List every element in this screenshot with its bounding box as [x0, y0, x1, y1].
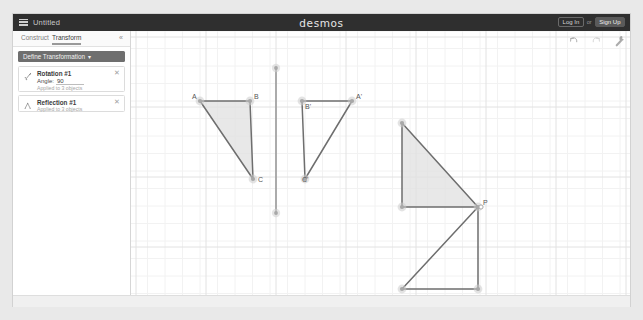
panel-tabs: Construct Transform « — [13, 31, 130, 47]
point-label-A-prime: A' — [356, 93, 362, 100]
grid-major — [130, 31, 630, 295]
close-icon[interactable]: ✕ — [114, 99, 120, 106]
vertex-point[interactable] — [300, 99, 304, 103]
vertex-point[interactable] — [476, 287, 480, 291]
rotation-applied-subtitle: Applied to 3 objects — [37, 85, 82, 91]
vertex-point[interactable] — [198, 99, 202, 103]
auth-separator: or — [587, 19, 592, 25]
define-transformation-button[interactable]: Define Transformation ▾ — [18, 51, 125, 62]
chevron-down-icon: ▾ — [88, 53, 91, 60]
shape-triangle-lower-right[interactable] — [402, 207, 478, 289]
rotation-icon — [23, 71, 34, 82]
point-label-C-prime: C' — [302, 176, 308, 183]
transform-panel: Construct Transform « Define Transformat… — [13, 31, 131, 295]
vertex-point[interactable] — [400, 205, 404, 209]
point-label-A: A — [192, 93, 197, 100]
redo-icon[interactable] — [590, 34, 603, 47]
shape-triangle-abc[interactable] — [200, 101, 253, 179]
vertex-point[interactable] — [251, 177, 255, 181]
top-bar: Untitled desmos Log In or Sign Up — [13, 14, 630, 31]
line-endpoint[interactable] — [274, 66, 278, 70]
rotation-angle-label: Angle: — [37, 78, 54, 84]
geometry-canvas[interactable]: ABCB'A'C'P — [130, 31, 630, 295]
reflection-applied-subtitle: Applied to 3 objects — [37, 106, 82, 112]
transformation-card-reflection[interactable]: Reflection #1 Applied to 3 objects ✕ — [18, 95, 125, 112]
define-transformation-label: Define Transformation — [23, 53, 85, 60]
point-label-P: P — [483, 199, 488, 206]
vertex-point[interactable] — [248, 99, 252, 103]
shape-triangle-abc-prime[interactable] — [302, 101, 352, 179]
point-label-C: C — [258, 176, 263, 183]
close-icon[interactable]: ✕ — [114, 70, 120, 77]
bottom-strip — [13, 295, 630, 307]
rotation-angle-row: Angle: 90 — [37, 78, 84, 85]
collapse-panel-button[interactable]: « — [119, 34, 123, 41]
sign-up-button[interactable]: Sign Up — [595, 17, 625, 27]
rotation-angle-input[interactable]: 90 — [56, 78, 84, 85]
point-label-B-prime: B' — [305, 103, 311, 110]
vertex-point[interactable] — [400, 287, 404, 291]
log-in-button[interactable]: Log In — [558, 17, 584, 27]
grid-minor — [130, 31, 630, 295]
canvas-toolbar — [567, 34, 626, 47]
point-label-B: B — [254, 93, 259, 100]
desmos-logo: desmos — [13, 17, 630, 29]
tab-transform[interactable]: Transform — [52, 34, 81, 41]
desmos-geometry-app: Untitled desmos Log In or Sign Up Constr… — [0, 0, 643, 320]
account-controls: Log In or Sign Up — [558, 17, 625, 27]
reflection-icon — [23, 100, 34, 111]
wrench-icon[interactable] — [613, 34, 626, 47]
vertex-point[interactable] — [400, 121, 404, 125]
geometry-drawing[interactable]: ABCB'A'C'P — [130, 31, 630, 295]
line-endpoint[interactable] — [274, 211, 278, 215]
tab-construct[interactable]: Construct — [21, 34, 49, 41]
undo-icon[interactable] — [567, 34, 580, 47]
transformation-card-rotation[interactable]: Rotation #1 Angle: 90 Applied to 3 objec… — [18, 66, 125, 92]
card-title-rotation: Rotation #1 — [37, 70, 71, 77]
vertex-point[interactable] — [350, 99, 354, 103]
